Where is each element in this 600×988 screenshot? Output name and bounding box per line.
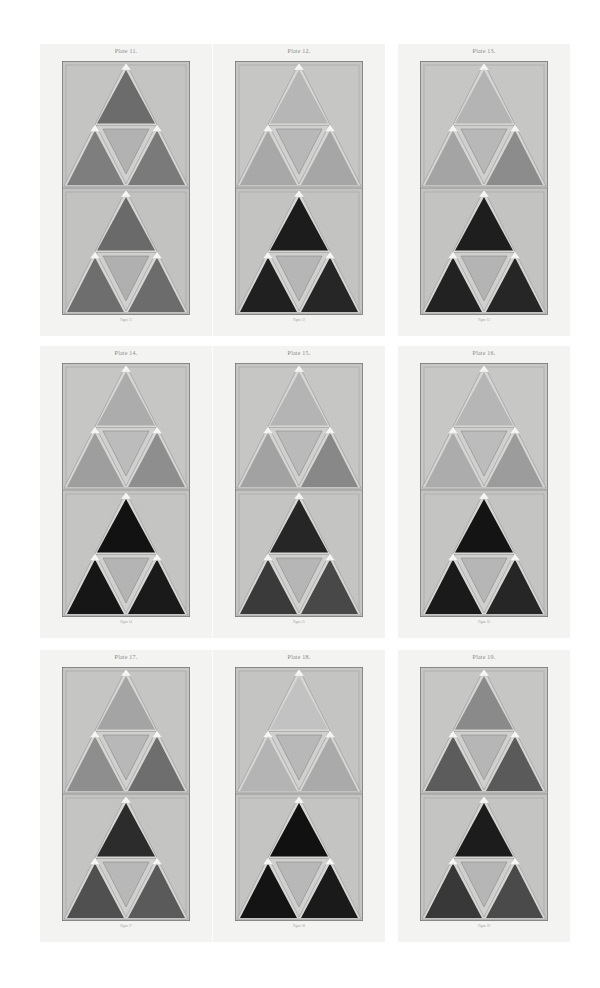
plate-title: Plate 19. (398, 654, 570, 660)
plate-title: Plate 13. (398, 48, 570, 54)
lower-panel: ... (421, 189, 548, 315)
plate-title: Plate 18. (213, 654, 385, 660)
plate-caption: Figure 14 (40, 620, 212, 624)
plate-title: Plate 17. (40, 654, 212, 660)
plate-caption: Figure 15 (213, 620, 385, 624)
lower-panel: ... (63, 491, 190, 617)
lower-panel: ... (421, 795, 548, 921)
plate-title: Plate 12. (213, 48, 385, 54)
plate-card-9: Plate 19. ... ... Figure 19 (398, 650, 570, 942)
upper-panel: ... (421, 668, 548, 794)
upper-panel: ... (63, 668, 190, 794)
upper-panel: ... (63, 364, 190, 490)
upper-panel: ... (236, 364, 363, 490)
upper-panel: ... (236, 62, 363, 188)
lower-panel: ... (236, 795, 363, 921)
plate-card-2: Plate 12. ... ... Figure 12 (213, 44, 385, 336)
plate-card-8: Plate 18. ... ... Figure 18 (213, 650, 385, 942)
lower-panel: ... (236, 491, 363, 617)
upper-panel: ... (63, 62, 190, 188)
plate-title: Plate 11. (40, 48, 212, 54)
plate-caption: Figure 18 (213, 924, 385, 928)
plate-caption: Figure 13 (398, 318, 570, 322)
plate-card-4: Plate 14. ... ... Figure 14 (40, 346, 212, 638)
lower-panel: ... (63, 795, 190, 921)
plate-card-5: Plate 15. ... ... Figure 15 (213, 346, 385, 638)
lower-panel: ... (421, 491, 548, 617)
plate-figure: ... ... (62, 363, 190, 617)
plate-caption: Figure 17 (40, 924, 212, 928)
plate-title: Plate 15. (213, 350, 385, 356)
plate-figure: ... ... (420, 667, 548, 921)
plate-figure: ... ... (420, 363, 548, 617)
lower-panel: ... (63, 189, 190, 315)
plate-caption: Figure 12 (213, 318, 385, 322)
plate-caption: Figure 19 (398, 924, 570, 928)
plate-title: Plate 16. (398, 350, 570, 356)
plate-title: Plate 14. (40, 350, 212, 356)
plate-figure: ... ... (420, 61, 548, 315)
plate-figure: ... ... (62, 61, 190, 315)
plate-caption: Figure 11 (40, 318, 212, 322)
upper-panel: ... (421, 62, 548, 188)
plate-card-6: Plate 16. ... ... Figure 16 (398, 346, 570, 638)
plate-card-1: Plate 11. ... ... Figure 11 (40, 44, 212, 336)
upper-panel: ... (236, 668, 363, 794)
plate-figure: ... ... (235, 61, 363, 315)
plate-figure: ... ... (235, 667, 363, 921)
plate-card-7: Plate 17. ... ... Figure 17 (40, 650, 212, 942)
lower-panel: ... (236, 189, 363, 315)
plate-figure: ... ... (235, 363, 363, 617)
plate-card-3: Plate 13. ... ... Figure 13 (398, 44, 570, 336)
plate-figure: ... ... (62, 667, 190, 921)
plate-caption: Figure 16 (398, 620, 570, 624)
upper-panel: ... (421, 364, 548, 490)
